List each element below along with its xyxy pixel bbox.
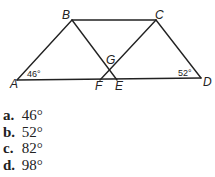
- choice-letter: b.: [3, 124, 18, 141]
- choice-letter: d.: [3, 157, 18, 174]
- choice-d[interactable]: d. 98°: [3, 157, 43, 174]
- answer-choices: a. 46° b. 52° c. 82° d. 98°: [3, 107, 43, 173]
- label-f: F: [95, 79, 103, 90]
- segment-ab: [17, 20, 72, 80]
- label-d: D: [203, 75, 212, 89]
- angle-d-label: 52°: [178, 68, 192, 78]
- label-g: G: [106, 53, 115, 67]
- choice-b[interactable]: b. 52°: [3, 124, 43, 141]
- choice-letter: c.: [3, 140, 18, 157]
- segment-ad: [17, 78, 201, 80]
- choice-value: 98°: [22, 157, 43, 173]
- choice-value: 46°: [22, 107, 43, 123]
- segment-be: [72, 20, 117, 80]
- choice-value: 82°: [22, 140, 43, 156]
- label-a: A: [9, 77, 18, 90]
- geometry-figure: A B C D E F G 46° 52°: [0, 0, 215, 90]
- segment-cf: [100, 20, 156, 80]
- choice-a[interactable]: a. 46°: [3, 107, 43, 124]
- angle-a-label: 46°: [27, 69, 41, 79]
- choice-c[interactable]: c. 82°: [3, 140, 43, 157]
- choice-value: 52°: [22, 124, 43, 140]
- label-e: E: [115, 79, 124, 90]
- label-b: B: [62, 8, 70, 22]
- label-c: C: [155, 8, 164, 22]
- choice-letter: a.: [3, 107, 18, 124]
